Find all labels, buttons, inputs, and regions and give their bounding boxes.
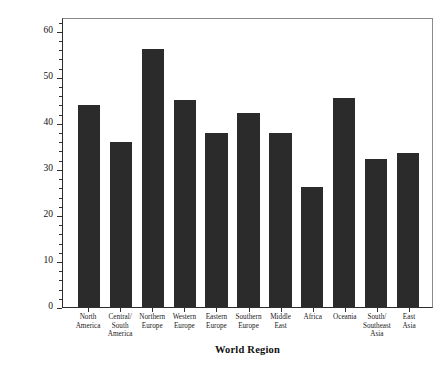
x-tick-label-line: North: [72, 313, 104, 322]
x-tick-slot: [265, 308, 297, 312]
x-tick-label-line: Central/: [104, 313, 136, 322]
bar-slot: [264, 19, 296, 307]
x-tick-slot: [168, 308, 200, 312]
x-tick-label: Oceania: [329, 313, 361, 339]
bar: [142, 49, 164, 307]
bar-slot: [105, 19, 137, 307]
bar-slot: [392, 19, 424, 307]
x-tick-slot: [136, 308, 168, 312]
bar-slot: [296, 19, 328, 307]
x-tick-slot: [361, 308, 393, 312]
x-tick-label-line: Africa: [297, 313, 329, 322]
x-tick-label-line: Middle: [265, 313, 297, 322]
bar-slot: [73, 19, 105, 307]
x-tick-label-line: Southern: [232, 313, 264, 322]
bar-slot: [233, 19, 265, 307]
x-tick-label-line: Europe: [136, 322, 168, 331]
bar-slot: [201, 19, 233, 307]
bar-slot: [328, 19, 360, 307]
x-tick-slot: [393, 308, 425, 312]
x-tick-label-line: South/: [361, 313, 393, 322]
x-tick-label: WesternEurope: [168, 313, 200, 339]
bar-chart-figure: Percentage of Securely Attached Individu…: [0, 0, 447, 369]
x-tick-slot: [232, 308, 264, 312]
x-tick-label: Central/SouthAmerica: [104, 313, 136, 339]
bar: [78, 105, 100, 307]
x-tick-label: SouthernEurope: [232, 313, 264, 339]
x-tick-mark: [184, 308, 185, 312]
bar: [110, 142, 132, 307]
x-tick-label: EastAsia: [393, 313, 425, 339]
x-tick-label: NorthernEurope: [136, 313, 168, 339]
bar: [333, 98, 355, 307]
x-tick-label: MiddleEast: [265, 313, 297, 339]
bar: [205, 133, 227, 307]
x-tick-label-line: Southeast: [361, 322, 393, 331]
x-tick-label-line: Europe: [200, 322, 232, 331]
bar-slot: [169, 19, 201, 307]
x-tick-slot: [329, 308, 361, 312]
bar: [269, 133, 291, 307]
y-tick-label: 30: [13, 163, 53, 173]
x-tick-mark: [88, 308, 89, 312]
x-tick-label-line: Western: [168, 313, 200, 322]
bar: [237, 113, 259, 307]
x-tick-mark: [152, 308, 153, 312]
x-tick-label: South/SoutheastAsia: [361, 313, 393, 339]
y-tick-label: 60: [13, 25, 53, 35]
x-tick-slot: [104, 308, 136, 312]
x-tick-label-line: Asia: [393, 322, 425, 331]
x-tick-label-line: Europe: [232, 322, 264, 331]
x-tick-mark: [409, 308, 410, 312]
x-axis-tick-marks: [62, 308, 433, 312]
y-tick-label: 20: [13, 209, 53, 219]
x-tick-label-line: East: [393, 313, 425, 322]
y-axis-ticks: 0102030405060: [0, 18, 62, 308]
x-tick-mark: [313, 308, 314, 312]
bar: [301, 187, 323, 307]
x-tick-mark: [345, 308, 346, 312]
x-tick-mark: [249, 308, 250, 312]
bar: [174, 100, 196, 307]
y-tick-label: 50: [13, 71, 53, 81]
x-tick-label-line: Europe: [168, 322, 200, 331]
y-tick-label: 0: [13, 301, 53, 311]
y-tick-label: 40: [13, 117, 53, 127]
x-axis-title: World Region: [62, 344, 433, 355]
x-tick-label: NorthAmerica: [72, 313, 104, 339]
y-tick-label: 10: [13, 255, 53, 265]
bar-slot: [360, 19, 392, 307]
x-tick-label-line: South: [104, 322, 136, 331]
x-tick-label-line: Asia: [361, 330, 393, 339]
bar-series: [63, 19, 432, 307]
x-tick-slot: [72, 308, 104, 312]
x-axis-tick-labels: NorthAmericaCentral/SouthAmericaNorthern…: [62, 313, 433, 339]
x-tick-mark: [120, 308, 121, 312]
x-tick-slot: [297, 308, 329, 312]
bar-slot: [137, 19, 169, 307]
x-tick-slot: [200, 308, 232, 312]
plot-area: [62, 18, 433, 308]
x-tick-label-line: Northern: [136, 313, 168, 322]
x-tick-label: Africa: [297, 313, 329, 339]
x-tick-label-line: America: [104, 330, 136, 339]
bar: [365, 159, 387, 307]
x-tick-label-line: America: [72, 322, 104, 331]
x-tick-mark: [216, 308, 217, 312]
x-tick-label-line: Oceania: [329, 313, 361, 322]
bar: [397, 153, 419, 307]
x-tick-mark: [281, 308, 282, 312]
x-tick-label-line: Eastern: [200, 313, 232, 322]
x-tick-label: EasternEurope: [200, 313, 232, 339]
x-tick-label-line: East: [265, 322, 297, 331]
x-tick-mark: [377, 308, 378, 312]
